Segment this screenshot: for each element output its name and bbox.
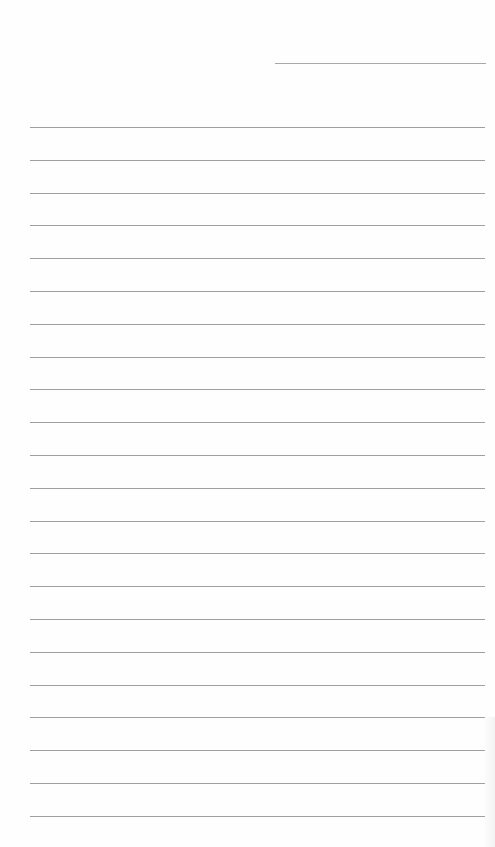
ruled-line	[30, 750, 485, 751]
ruled-line	[30, 521, 485, 522]
ruled-line	[30, 455, 485, 456]
header-date-line	[275, 63, 486, 64]
ruled-line	[30, 488, 485, 489]
ruled-line	[30, 717, 485, 718]
ruled-line	[30, 816, 485, 817]
ruled-line	[30, 783, 485, 784]
ruled-line	[30, 586, 485, 587]
ruled-line	[30, 225, 485, 226]
lined-paper-page	[0, 0, 495, 847]
ruled-line	[30, 553, 485, 554]
ruled-line	[30, 291, 485, 292]
ruled-line	[30, 357, 485, 358]
ruled-line	[30, 652, 485, 653]
ruled-line	[30, 127, 485, 128]
ruled-line	[30, 324, 485, 325]
ruled-line	[30, 389, 485, 390]
page-edge-shadow	[483, 717, 495, 847]
ruled-line	[30, 160, 485, 161]
ruled-line	[30, 685, 485, 686]
ruled-line	[30, 193, 485, 194]
ruled-line	[30, 422, 485, 423]
ruled-line	[30, 619, 485, 620]
ruled-line	[30, 258, 485, 259]
